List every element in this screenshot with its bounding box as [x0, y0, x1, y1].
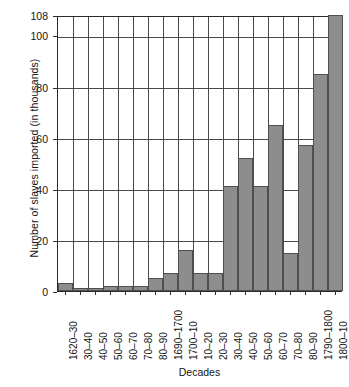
- x-tick-mark: [245, 292, 246, 295]
- y-tick-label: 40: [36, 185, 48, 195]
- x-tick-label: 70–80: [294, 332, 304, 360]
- bar: [298, 145, 313, 291]
- x-tick-mark: [125, 292, 126, 295]
- x-tick-label: 70–80: [144, 332, 154, 360]
- x-tick-mark: [290, 292, 291, 295]
- x-tick-label: 40–50: [249, 332, 259, 360]
- y-tick-label: 100: [30, 31, 48, 41]
- bar: [223, 186, 238, 291]
- y-tick-label: 60: [36, 134, 48, 144]
- x-tick-label: 20–30: [219, 332, 229, 360]
- x-tick-mark: [170, 292, 171, 295]
- x-tick-mark: [200, 292, 201, 295]
- x-tick-label: 1800–10: [339, 321, 349, 360]
- y-tick-label: 20: [36, 236, 48, 246]
- y-tick-label: 80: [36, 83, 48, 93]
- x-tick-mark: [110, 292, 111, 295]
- x-tick-mark: [65, 292, 66, 295]
- bar: [163, 273, 178, 291]
- x-axis-tick-labels: 1620–3030–4040–5050–6060–7070–8080–90169…: [57, 292, 342, 362]
- bar: [268, 125, 283, 291]
- bar: [148, 278, 163, 291]
- x-tick-mark: [275, 292, 276, 295]
- x-tick-mark: [335, 292, 336, 295]
- bar: [313, 74, 328, 291]
- bar: [118, 286, 133, 291]
- bar: [88, 288, 103, 291]
- bar: [283, 253, 298, 291]
- plot-area: [57, 16, 342, 292]
- bar: [133, 286, 148, 291]
- x-tick-mark: [320, 292, 321, 295]
- x-tick-mark: [140, 292, 141, 295]
- x-tick-label: 80–90: [309, 332, 319, 360]
- x-tick-mark: [260, 292, 261, 295]
- y-tick-label: 108: [30, 11, 48, 21]
- x-tick-mark: [185, 292, 186, 295]
- bar: [193, 273, 208, 291]
- bar: [103, 286, 118, 291]
- bar-series: [58, 17, 341, 291]
- x-tick-label: 30–40: [84, 332, 94, 360]
- bar: [328, 15, 343, 291]
- x-tick-mark: [230, 292, 231, 295]
- bar: [58, 283, 73, 291]
- bar-chart-figure: Number of slaves imported (in thousands)…: [0, 0, 349, 387]
- x-tick-mark: [155, 292, 156, 295]
- x-tick-mark: [215, 292, 216, 295]
- x-tick-mark: [305, 292, 306, 295]
- x-tick-label: 1700–10: [189, 321, 199, 360]
- x-tick-label: 1790–1800: [324, 310, 334, 360]
- bar: [253, 186, 268, 291]
- bar: [178, 250, 193, 291]
- x-tick-mark: [80, 292, 81, 295]
- x-tick-label: 1620–30: [69, 321, 79, 360]
- x-tick-label: 40–50: [99, 332, 109, 360]
- x-axis-title: Decades: [57, 366, 342, 378]
- x-tick-label: 80–90: [159, 332, 169, 360]
- x-tick-label: 60–70: [279, 332, 289, 360]
- y-tick-label: 0: [42, 287, 48, 297]
- x-tick-label: 1690–1700: [174, 310, 184, 360]
- x-tick-label: 50–60: [114, 332, 124, 360]
- bar: [208, 273, 223, 291]
- x-tick-label: 30–40: [234, 332, 244, 360]
- y-axis-tick-labels: 020406080100108: [0, 0, 54, 387]
- x-tick-mark: [95, 292, 96, 295]
- bar: [238, 158, 253, 291]
- bar: [73, 288, 88, 291]
- x-tick-label: 10–20: [204, 332, 214, 360]
- x-tick-label: 60–70: [129, 332, 139, 360]
- x-tick-label: 50–60: [264, 332, 274, 360]
